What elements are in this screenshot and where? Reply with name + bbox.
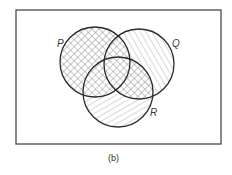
set-P-label: P <box>57 38 64 49</box>
set-Q-label: Q <box>172 38 180 49</box>
set-R-label: R <box>150 107 157 118</box>
venn-diagram-figure: P Q R (b) <box>0 0 232 175</box>
figure-caption: (b) <box>108 153 119 163</box>
venn-diagram-svg: P Q R (b) <box>0 0 232 175</box>
